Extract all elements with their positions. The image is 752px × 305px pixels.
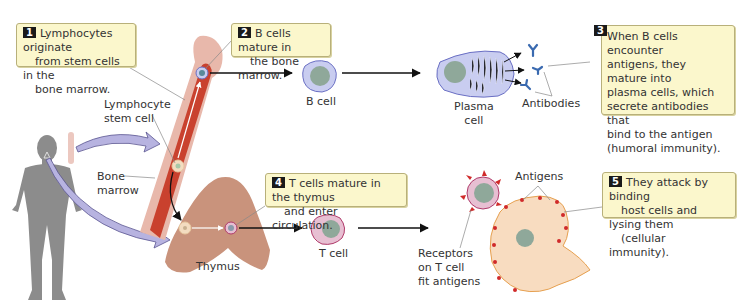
- callout-step-3: 3 When B cells encounter antigens, they …: [601, 25, 735, 115]
- step-number-1: 1: [23, 27, 36, 38]
- callout-step-1: 1Lymphocytes originate from stem cells i…: [16, 23, 136, 67]
- label-receptors: Receptors on T cell fit antigens: [418, 247, 480, 289]
- callout-step-2: 2B cells mature in the bone marrow.: [231, 23, 331, 57]
- label-plasma-cell: Plasma cell: [454, 100, 494, 128]
- label-t-cell: T cell: [319, 247, 348, 261]
- label-antibodies: Antibodies: [522, 97, 580, 111]
- arm-bone-marker: [68, 132, 74, 164]
- label-bone-marrow: Bone marrow: [97, 170, 139, 198]
- label-antigens: Antigens: [515, 170, 563, 184]
- antibody-icons: [521, 45, 542, 89]
- body-to-bone-arrow: [76, 132, 160, 152]
- label-lymphocyte-stem-cell: Lymphocyte stem cell: [104, 98, 171, 126]
- label-thymus: Thymus: [196, 260, 240, 274]
- step-number-2: 2: [238, 27, 251, 38]
- step-number-4: 4: [272, 177, 285, 188]
- step-number-5: 5: [609, 176, 622, 187]
- callout-step-4: 4T cells mature in the thymus and enter …: [265, 173, 407, 207]
- callout-step-5: 5They attack by binding host cells and l…: [602, 172, 736, 218]
- step-number-3: 3: [594, 25, 607, 36]
- label-b-cell: B cell: [306, 95, 336, 109]
- attacking-t-cell: [460, 170, 502, 212]
